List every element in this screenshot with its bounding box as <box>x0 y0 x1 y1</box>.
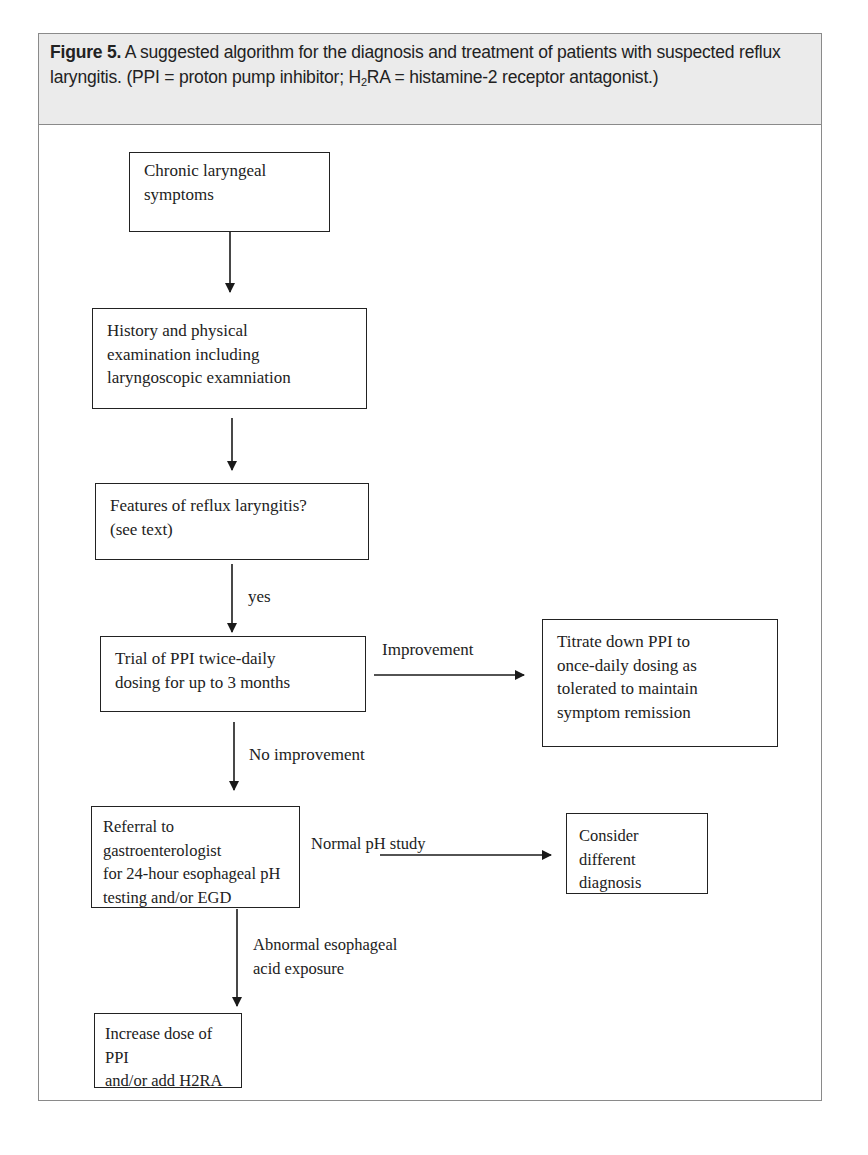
node-titrate-down: Titrate down PPI to once-daily dosing as… <box>542 619 778 747</box>
node-line: diagnosis <box>579 871 695 895</box>
edge-label-normal-ph: Normal pH study <box>311 832 426 856</box>
node-line: Referral to gastroenterologist <box>103 815 288 862</box>
node-ppi-trial: Trial of PPI twice-daily dosing for up t… <box>100 636 366 712</box>
edge-label-no-improvement: No improvement <box>249 743 365 767</box>
node-increase-dose: Increase dose of PPI and/or add H2RA <box>94 1013 242 1088</box>
edge-label-yes: yes <box>248 585 271 609</box>
node-features: Features of reflux laryngitis? (see text… <box>95 483 369 560</box>
node-line: examination including <box>107 343 352 367</box>
node-line: Chronic laryngeal <box>144 159 315 183</box>
node-line: symptoms <box>144 183 315 207</box>
edge-label-line: Abnormal esophageal <box>253 933 397 957</box>
node-line: testing and/or EGD <box>103 886 288 910</box>
node-line: once-daily dosing as <box>557 654 763 678</box>
edge-label-improvement: Improvement <box>382 638 474 662</box>
node-line: (see text) <box>110 518 354 542</box>
node-line: symptom remission <box>557 701 763 725</box>
node-chronic-symptoms: Chronic laryngeal symptoms <box>129 152 330 232</box>
node-referral: Referral to gastroenterologist for 24-ho… <box>91 806 300 908</box>
node-line: Increase dose of PPI <box>105 1022 231 1069</box>
node-line: Trial of PPI twice-daily <box>115 647 351 671</box>
node-line: Titrate down PPI to <box>557 630 763 654</box>
node-line: and/or add H2RA <box>105 1069 231 1093</box>
node-line: tolerated to maintain <box>557 677 763 701</box>
node-line: laryngoscopic examniation <box>107 366 352 390</box>
node-line: Consider different <box>579 824 695 871</box>
node-history-exam: History and physical examination includi… <box>92 308 367 409</box>
node-line: for 24-hour esophageal pH <box>103 862 288 886</box>
node-line: dosing for up to 3 months <box>115 671 351 695</box>
node-line: History and physical <box>107 319 352 343</box>
node-different-diagnosis: Consider different diagnosis <box>566 813 708 894</box>
edge-label-abnormal-acid: Abnormal esophageal acid exposure <box>253 933 397 980</box>
node-line: Features of reflux laryngitis? <box>110 494 354 518</box>
edge-label-line: acid exposure <box>253 957 397 981</box>
